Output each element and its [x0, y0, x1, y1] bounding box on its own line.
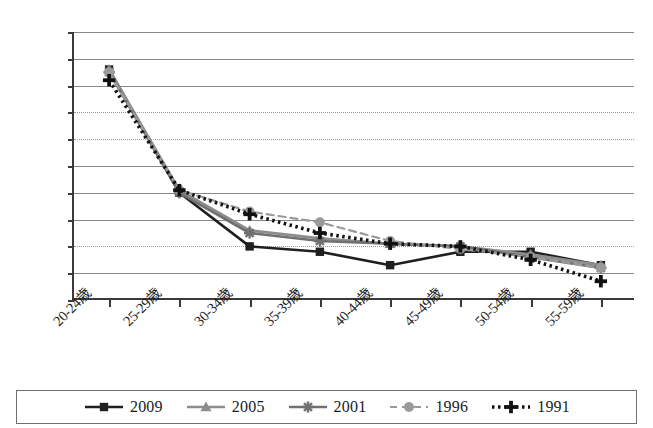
x-tick-label: 40-44歳: [328, 282, 375, 329]
series-line: [109, 80, 601, 281]
gridline: [74, 220, 634, 221]
gridline: [74, 273, 634, 274]
x-tick-mark: [109, 300, 111, 307]
legend-item-1991[interactable]: 1991: [490, 398, 570, 416]
series-line: [109, 72, 601, 268]
x-tick-label: 25-29歳: [117, 282, 164, 329]
legend-key-asterisk-icon: [287, 399, 329, 415]
plot-area: 100%90%80%70%60%50%40%30%20%10%0% 20-24歳…: [72, 32, 634, 300]
data-point-plus: [103, 74, 115, 86]
data-point-circle: [245, 207, 255, 217]
legend-label: 2009: [130, 398, 163, 416]
series-1996: [104, 67, 606, 273]
y-tick-mark: [68, 273, 74, 275]
gridline: [74, 59, 634, 60]
data-point-circle: [526, 252, 536, 262]
x-tick-mark: [179, 300, 181, 307]
data-point-circle: [404, 402, 414, 412]
y-tick-mark: [68, 59, 74, 61]
gridline: [74, 193, 634, 194]
y-tick-mark: [68, 246, 74, 248]
legend-label: 1991: [537, 398, 570, 416]
data-point-circle: [596, 263, 606, 273]
x-tick-mark: [531, 300, 533, 307]
gridline: [74, 32, 634, 33]
y-tick-mark: [68, 86, 74, 88]
x-tick-label: 55-59歳: [539, 282, 586, 329]
y-tick-mark: [68, 166, 74, 168]
legend-key-triangle-icon: [185, 399, 227, 415]
data-point-triangle: [104, 64, 115, 74]
gridline: [74, 166, 634, 167]
y-tick-mark: [68, 139, 74, 141]
y-tick-mark: [68, 32, 74, 34]
legend-label: 1996: [435, 398, 468, 416]
series-line: [109, 72, 601, 268]
data-point-triangle: [525, 249, 536, 259]
data-point-asterisk: [244, 227, 255, 238]
data-point-asterisk: [525, 252, 536, 263]
data-point-circle: [385, 236, 395, 246]
data-point-plus: [384, 238, 396, 250]
data-point-plus: [524, 254, 536, 266]
series-2009: [105, 65, 605, 269]
data-point-square: [597, 261, 605, 269]
legend-label: 2005: [232, 398, 265, 416]
data-point-asterisk: [595, 262, 606, 273]
x-tick-mark: [320, 300, 322, 307]
series-1991: [103, 74, 607, 287]
series-2001: [104, 67, 607, 274]
data-point-plus: [173, 184, 185, 196]
line-chart: 100%90%80%70%60%50%40%30%20%10%0% 20-24歳…: [0, 0, 653, 428]
legend-label: 2001: [334, 398, 367, 416]
data-point-square: [526, 248, 534, 256]
legend-key-plus-icon: [490, 399, 532, 415]
data-point-asterisk: [104, 67, 115, 78]
data-point-square: [386, 261, 394, 269]
data-point-plus: [314, 227, 326, 239]
legend-item-2005[interactable]: 2005: [185, 398, 265, 416]
data-point-plus: [243, 208, 255, 220]
y-tick-mark: [68, 112, 74, 114]
legend-key-square-icon: [83, 399, 125, 415]
data-point-asterisk: [302, 401, 313, 412]
data-point-asterisk: [314, 235, 325, 246]
data-point-triangle: [244, 225, 255, 235]
data-point-asterisk: [385, 238, 396, 249]
series-line: [109, 70, 601, 266]
gridline: [74, 246, 634, 247]
data-point-square: [456, 248, 464, 256]
x-tick-mark: [601, 300, 603, 307]
x-tick-mark: [250, 300, 252, 307]
legend-item-1996[interactable]: 1996: [388, 398, 468, 416]
gridline: [74, 86, 634, 87]
legend-key-circle-icon: [388, 399, 430, 415]
data-point-plus: [505, 401, 517, 413]
gridline: [74, 139, 634, 140]
x-tick-label: 20-24歳: [47, 282, 94, 329]
gridline: [74, 112, 634, 113]
data-point-square: [316, 248, 324, 256]
series-line: [109, 70, 601, 266]
y-tick-mark: [68, 220, 74, 222]
data-point-plus: [595, 275, 607, 287]
data-point-triangle: [595, 260, 606, 270]
x-tick-mark: [460, 300, 462, 307]
x-tick-mark: [390, 300, 392, 307]
x-tick-label: 35-39歳: [258, 282, 305, 329]
data-point-circle: [104, 67, 114, 77]
legend-item-2001[interactable]: 2001: [287, 398, 367, 416]
data-point-square: [100, 403, 108, 411]
legend-item-2009[interactable]: 2009: [83, 398, 163, 416]
x-tick-label: 50-54歳: [469, 282, 516, 329]
data-point-square: [105, 65, 113, 73]
chart-legend: 20092005200119961991: [16, 390, 637, 424]
data-point-triangle: [314, 233, 325, 243]
x-tick-label: 30-34歳: [188, 282, 235, 329]
y-tick-mark: [68, 193, 74, 195]
x-tick-label: 45-49歳: [398, 282, 445, 329]
